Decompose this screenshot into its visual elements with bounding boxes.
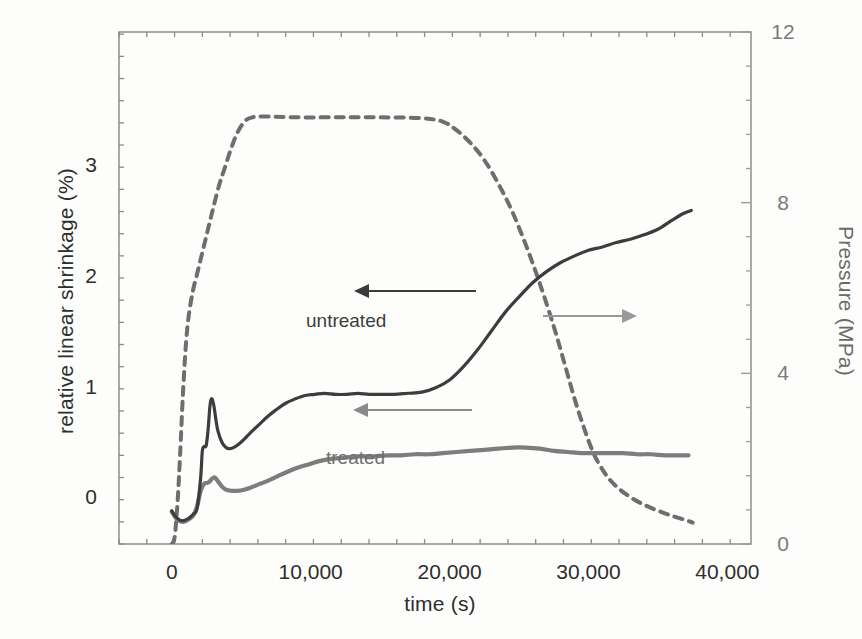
tick-label: 0 <box>85 485 97 509</box>
tick-label: 10,000 <box>279 560 343 584</box>
figure-chart: relative linear shrinkage (%) Pressure (… <box>0 0 862 639</box>
tick-label: 1 <box>85 375 97 399</box>
tick-label: 0 <box>777 532 789 556</box>
plot-canvas <box>0 0 862 639</box>
y-axis-label-right: Pressure (MPa) <box>834 91 858 511</box>
tick-label: 4 <box>777 361 789 385</box>
series-label-untreated: untreated <box>306 310 386 332</box>
tick-label: 2 <box>85 264 97 288</box>
tick-label: 20,000 <box>417 560 481 584</box>
series-label-treated: treated <box>326 447 385 469</box>
canvas-background <box>0 0 862 639</box>
tick-label: 40,000 <box>695 560 759 584</box>
tick-label: 3 <box>85 153 97 177</box>
tick-label: 30,000 <box>556 560 620 584</box>
y-axis-label-left: relative linear shrinkage (%) <box>54 91 78 511</box>
tick-label: 12 <box>771 20 794 44</box>
x-axis-label: time (s) <box>330 592 550 616</box>
tick-label: 8 <box>777 191 789 215</box>
tick-label: 0 <box>166 560 178 584</box>
